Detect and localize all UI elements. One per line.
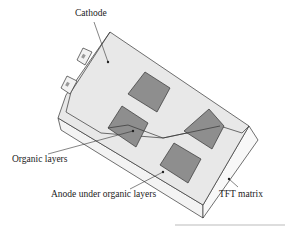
anode-label: Anode under organic layers xyxy=(51,190,156,200)
tft-leader xyxy=(229,179,238,187)
organic-layers-label: Organic layers xyxy=(12,155,67,165)
tft-matrix-label: TFT matrix xyxy=(219,190,263,200)
cathode-label: Cathode xyxy=(75,9,107,19)
